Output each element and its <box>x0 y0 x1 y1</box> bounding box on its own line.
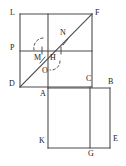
label-H: H <box>50 54 56 62</box>
label-A: A <box>40 90 46 98</box>
label-G: G <box>88 150 94 158</box>
label-C: C <box>86 75 91 83</box>
geometry-figure: L F N P M H O D A C B K E G <box>0 0 126 166</box>
label-D: D <box>9 80 15 88</box>
dashed-arc-lower-right <box>50 61 60 70</box>
label-B: B <box>108 78 113 86</box>
label-K: K <box>39 137 45 145</box>
label-P: P <box>10 44 14 52</box>
label-L: L <box>10 9 15 17</box>
label-F: F <box>95 9 99 17</box>
label-E: E <box>113 135 118 143</box>
label-N: N <box>60 29 66 37</box>
label-M: M <box>34 54 41 62</box>
label-O: O <box>42 67 48 75</box>
